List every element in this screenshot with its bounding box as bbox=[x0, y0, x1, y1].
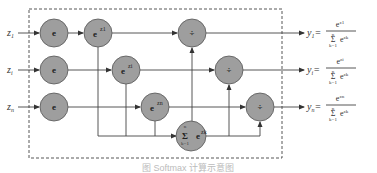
output-formula-n: yn= ezn n Σ k=1 ezk bbox=[306, 94, 356, 122]
svg-text:ezk: ezk bbox=[340, 109, 349, 118]
svg-text:e: e bbox=[196, 131, 200, 141]
power-node-i: e zi bbox=[112, 56, 140, 84]
svg-text:e: e bbox=[52, 102, 56, 112]
svg-text:e: e bbox=[150, 103, 154, 113]
figure-caption: 图 Softmax 计算示意图 bbox=[142, 162, 234, 173]
edge-pow1-to-sum bbox=[98, 47, 176, 136]
edge-sum-to-divn bbox=[229, 122, 260, 136]
divide-node-n: ÷ bbox=[246, 93, 274, 121]
svg-text:e: e bbox=[93, 29, 97, 39]
svg-text:k=1: k=1 bbox=[329, 43, 337, 48]
svg-text:ez1: ez1 bbox=[336, 20, 345, 29]
power-node-n: e zn bbox=[141, 93, 169, 121]
input-row-i: zi bbox=[6, 64, 39, 76]
svg-text:z1: z1 bbox=[100, 26, 106, 32]
exp-node-n: e bbox=[40, 93, 68, 121]
svg-text:Σ: Σ bbox=[182, 131, 188, 141]
svg-text:k=1: k=1 bbox=[329, 80, 337, 85]
svg-text:÷: ÷ bbox=[258, 102, 263, 112]
divide-node-i: ÷ bbox=[215, 56, 243, 84]
input-label-zi: zi bbox=[6, 64, 13, 76]
edge-sum-to-divi bbox=[205, 85, 229, 136]
svg-text:ezk: ezk bbox=[340, 35, 349, 44]
svg-text:k=1: k=1 bbox=[329, 117, 337, 122]
output-formula-1: y1= ez1 n Σ k=1 ezk bbox=[306, 20, 356, 48]
svg-text:÷: ÷ bbox=[227, 65, 232, 75]
svg-text:÷: ÷ bbox=[190, 28, 195, 38]
input-row-n: zn bbox=[6, 101, 39, 113]
svg-text:y1=: y1= bbox=[306, 27, 321, 39]
svg-text:ezi: ezi bbox=[336, 57, 344, 66]
svg-text:yn=: yn= bbox=[306, 101, 321, 113]
input-row-1: z1 bbox=[6, 27, 39, 39]
svg-text:zi: zi bbox=[128, 63, 133, 69]
input-label-zn: zn bbox=[6, 101, 14, 113]
softmax-diagram: z1 zi zn e e e e z1 bbox=[0, 0, 377, 173]
input-label-z1: z1 bbox=[6, 27, 14, 39]
svg-text:ezk: ezk bbox=[340, 72, 349, 81]
power-node-1: e z1 bbox=[84, 19, 112, 47]
svg-text:e: e bbox=[52, 65, 56, 75]
svg-text:e: e bbox=[52, 28, 56, 38]
divide-node-1: ÷ bbox=[178, 19, 206, 47]
sum-node: n Σ k=1 e zk bbox=[176, 121, 207, 151]
svg-text:zn: zn bbox=[157, 100, 163, 106]
svg-text:yi=: yi= bbox=[306, 64, 320, 76]
exp-node-1: e bbox=[40, 19, 68, 47]
svg-text:k=1: k=1 bbox=[181, 141, 189, 146]
svg-text:ezn: ezn bbox=[336, 94, 345, 103]
exp-node-i: e bbox=[40, 56, 68, 84]
svg-text:zk: zk bbox=[201, 129, 207, 135]
output-formula-i: yi= ezi n Σ k=1 ezk bbox=[306, 57, 356, 85]
svg-text:e: e bbox=[121, 66, 125, 76]
